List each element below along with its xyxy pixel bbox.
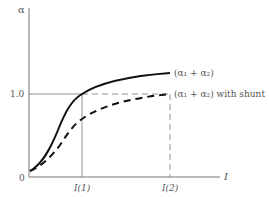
y-axis-label: α bbox=[18, 4, 25, 15]
x-axis-label: I bbox=[223, 171, 229, 182]
origin-label: 0 bbox=[19, 173, 25, 183]
chart: α I 0 1.0 I(1) I(2) (α₁ + α₂) (α₁ + α₂) … bbox=[0, 0, 269, 197]
curve-dashed bbox=[30, 94, 170, 171]
x-tick-i1: I(1) bbox=[73, 183, 91, 193]
series-label-solid: (α₁ + α₂) bbox=[174, 68, 214, 78]
x-tick-i2: I(2) bbox=[161, 183, 179, 193]
series-label-dashed: (α₁ + α₂) with shunt bbox=[174, 89, 265, 99]
y-tick-one: 1.0 bbox=[10, 89, 25, 99]
